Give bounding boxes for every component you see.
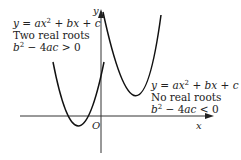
cond-term: ac bbox=[46, 41, 58, 53]
label-two-real-roots: y = ax2 + bx + c Two real roots b2 − 4ac… bbox=[13, 17, 101, 53]
cond-term: b bbox=[13, 41, 20, 53]
cond-op: − 4 bbox=[162, 103, 184, 115]
cond-term: ac bbox=[184, 103, 196, 115]
equation-left: y = ax2 + bx + c bbox=[13, 17, 101, 29]
eq-term: c bbox=[233, 79, 239, 91]
eq-term: ax bbox=[34, 17, 46, 29]
eq-op: + bbox=[51, 17, 66, 29]
cond-op: > 0 bbox=[59, 41, 81, 53]
cond-op: < 0 bbox=[197, 103, 219, 115]
y-axis-label: y bbox=[93, 5, 99, 17]
x-axis-label: x bbox=[196, 120, 202, 132]
eq-term: c bbox=[95, 17, 101, 29]
eq-op: + bbox=[79, 17, 94, 29]
eq-op: = bbox=[19, 17, 34, 29]
description-left: Two real roots bbox=[13, 29, 101, 41]
condition-left: b2 − 4ac > 0 bbox=[13, 41, 101, 53]
label-no-real-roots: y = ax2 + bx + c No real roots b2 − 4ac … bbox=[151, 79, 239, 115]
description-right: No real roots bbox=[151, 91, 239, 103]
eq-op: + bbox=[189, 79, 204, 91]
eq-term: ax bbox=[172, 79, 184, 91]
cond-term: b bbox=[151, 103, 158, 115]
condition-right: b2 − 4ac < 0 bbox=[151, 103, 239, 115]
cond-op: − 4 bbox=[24, 41, 46, 53]
eq-op: + bbox=[217, 79, 232, 91]
origin-label: O bbox=[92, 120, 100, 132]
eq-term: bx bbox=[205, 79, 218, 91]
equation-right: y = ax2 + bx + c bbox=[151, 79, 239, 91]
eq-term: bx bbox=[67, 17, 80, 29]
eq-op: = bbox=[157, 79, 172, 91]
